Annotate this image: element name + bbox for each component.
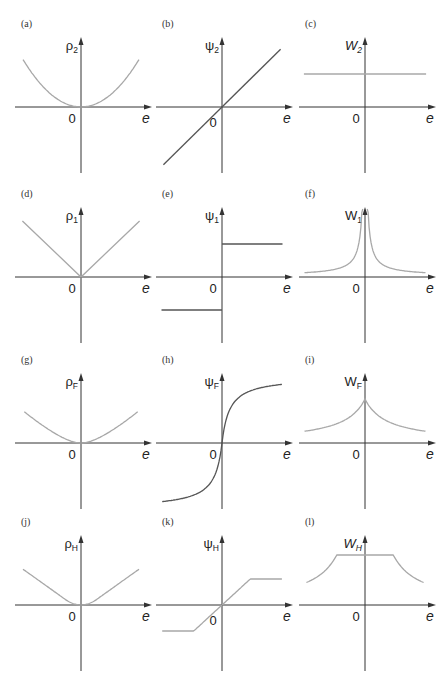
origin-label: 0 [68, 111, 75, 126]
y-axis-label: ρF [65, 374, 78, 391]
x-axis-arrow-icon [144, 105, 152, 110]
y-axis-label: WH [344, 536, 363, 553]
y-axis-arrow-icon [79, 207, 84, 215]
x-axis-arrow-icon [285, 275, 293, 280]
origin-label: 0 [209, 447, 216, 462]
y-axis-arrow-icon [220, 37, 225, 45]
x-axis-arrow-icon [144, 441, 152, 446]
panel-label: (b) [162, 18, 174, 30]
x-axis-arrow-icon [285, 441, 293, 446]
y-axis-label: ρ2 [66, 38, 78, 55]
panel-h: (h)ψFe0 [156, 354, 293, 509]
x-axis-arrow-icon [428, 105, 436, 110]
y-axis-arrow-icon [363, 373, 368, 381]
x-axis-arrow-icon [428, 275, 436, 280]
origin-label: 0 [352, 281, 359, 296]
x-axis-label: e [426, 280, 434, 296]
panel-label: (e) [162, 188, 173, 200]
origin-label: 0 [352, 111, 359, 126]
panel-label: (a) [21, 18, 32, 30]
origin-label: 0 [209, 281, 216, 296]
panel-e: (e)ψ1e0 [156, 188, 293, 343]
x-axis-label: e [142, 446, 150, 462]
x-axis-label: e [426, 110, 434, 126]
panel-g: (g)ρFe0 [15, 354, 152, 509]
panel-l: (l)WHe0 [299, 516, 436, 671]
panel-label: (c) [305, 18, 316, 30]
panel-b: (b)ψ2e0 [156, 18, 293, 173]
y-axis-arrow-icon [79, 535, 84, 543]
origin-label: 0 [68, 281, 75, 296]
panel-label: (g) [21, 354, 33, 366]
y-axis-label: ψH [204, 536, 219, 553]
y-axis-label: WF [345, 374, 362, 391]
y-axis-arrow-icon [79, 373, 84, 381]
y-axis-label: ψ1 [205, 208, 219, 225]
x-axis-arrow-icon [144, 603, 152, 608]
panel-k: (k)ψHe0 [156, 516, 293, 671]
y-axis-arrow-icon [220, 373, 225, 381]
origin-label: 0 [68, 609, 75, 624]
y-axis-arrow-icon [363, 37, 368, 45]
x-axis-arrow-icon [428, 441, 436, 446]
y-axis-arrow-icon [220, 535, 225, 543]
panel-label: (d) [21, 188, 33, 200]
origin-label: 0 [352, 447, 359, 462]
y-axis-arrow-icon [220, 207, 225, 215]
origin-label: 0 [352, 609, 359, 624]
y-axis-arrow-icon [363, 207, 368, 215]
origin-label: 0 [68, 447, 75, 462]
x-axis-arrow-icon [428, 603, 436, 608]
panel-label: (j) [21, 516, 30, 528]
x-axis-label: e [142, 110, 150, 126]
y-axis-label: ψF [205, 374, 219, 391]
panel-label: (h) [162, 354, 174, 366]
x-axis-label: e [283, 608, 291, 624]
x-axis-arrow-icon [285, 603, 293, 608]
x-axis-label: e [142, 280, 150, 296]
panel-f: (f)W1e0 [299, 188, 436, 343]
y-axis-label: ρ1 [66, 208, 78, 225]
x-axis-label: e [426, 446, 434, 462]
y-axis-label: W2 [345, 38, 362, 55]
panel-a: (a)ρ2e0 [15, 18, 152, 173]
y-axis-label: ρH [64, 536, 78, 553]
figure-grid: (a)ρ2e0(b)ψ2e0(c)W2e0(d)ρ1e0(e)ψ1e0(f)W1… [0, 0, 444, 683]
panel-d: (d)ρ1e0 [15, 188, 152, 343]
x-axis-arrow-icon [285, 105, 293, 110]
y-axis-arrow-icon [363, 535, 368, 543]
x-axis-arrow-icon [144, 275, 152, 280]
x-axis-label: e [283, 446, 291, 462]
x-axis-label: e [283, 110, 291, 126]
panel-i: (i)WFe0 [299, 354, 436, 509]
y-axis-label: W1 [345, 208, 362, 225]
panel-label: (k) [162, 516, 174, 528]
origin-label: 0 [209, 115, 216, 130]
panel-label: (l) [305, 516, 314, 528]
panel-j: (j)ρHe0 [15, 516, 152, 671]
panel-label: (i) [305, 354, 314, 366]
y-axis-arrow-icon [79, 37, 84, 45]
panel-label: (f) [305, 188, 315, 200]
panel-c: (c)W2e0 [299, 18, 436, 173]
x-axis-label: e [142, 608, 150, 624]
x-axis-label: e [283, 280, 291, 296]
x-axis-label: e [426, 608, 434, 624]
y-axis-label: ψ2 [205, 38, 219, 55]
